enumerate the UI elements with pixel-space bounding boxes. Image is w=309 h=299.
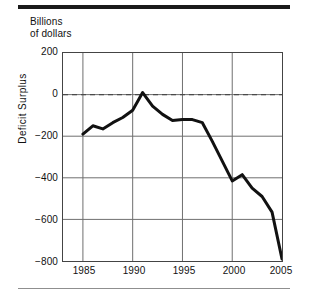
x-tick-label: 1990 (114, 266, 154, 276)
x-tick-label: 2005 (261, 266, 301, 276)
y-tick-label: 0 (24, 89, 58, 99)
x-tick-label: 1985 (64, 266, 104, 276)
y-tick-label: −600 (24, 215, 58, 225)
y-axis-tick-labels: 200 0 −200 −400 −600 −800 (20, 52, 58, 262)
y-tick-label: 200 (24, 47, 58, 57)
y-tick-label: −800 (24, 257, 58, 267)
y-tick-label: −200 (24, 131, 58, 141)
bottom-divider-rule (18, 288, 290, 289)
x-axis-tick-labels: 1985 1990 1995 2000 2005 (62, 266, 283, 280)
chart-title: Billions of dollars (30, 16, 72, 39)
chart-svg (63, 53, 282, 261)
x-tick-label: 2000 (214, 266, 254, 276)
top-divider-rule (18, 5, 290, 9)
x-tick-label: 1995 (164, 266, 204, 276)
chart-gridlines (63, 53, 282, 261)
y-tick-label: −400 (24, 173, 58, 183)
chart-plot-area (62, 52, 283, 262)
